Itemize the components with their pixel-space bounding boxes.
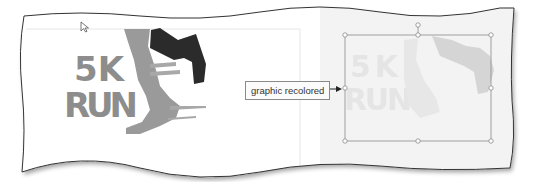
svg-text:RUN: RUN — [344, 82, 410, 117]
mouse-pointer-icon — [80, 21, 90, 33]
resize-handle-top-left[interactable] — [343, 33, 347, 37]
resize-handle-left[interactable] — [343, 86, 347, 90]
resize-handle-bottom[interactable] — [416, 139, 420, 143]
svg-text:RUN: RUN — [64, 85, 136, 125]
rotate-handle[interactable] — [416, 23, 420, 27]
resize-handle-right[interactable] — [489, 86, 493, 90]
svg-text:5K: 5K — [350, 49, 400, 84]
resize-handle-top[interactable] — [416, 33, 420, 37]
resize-handle-bottom-right[interactable] — [489, 139, 493, 143]
callout-graphic-recolored: graphic recolored — [245, 81, 330, 100]
svg-text:5K: 5K — [74, 49, 126, 89]
resize-handle-top-right[interactable] — [489, 33, 493, 37]
resize-handle-bottom-left[interactable] — [343, 139, 347, 143]
